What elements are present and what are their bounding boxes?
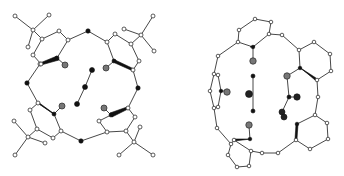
molecule-diagrams: [0, 0, 344, 176]
figure: [0, 0, 344, 176]
right-atoms: [208, 17, 333, 169]
right-molecule: [208, 17, 333, 169]
left-atoms: [12, 13, 156, 157]
left-molecule: [12, 13, 156, 157]
